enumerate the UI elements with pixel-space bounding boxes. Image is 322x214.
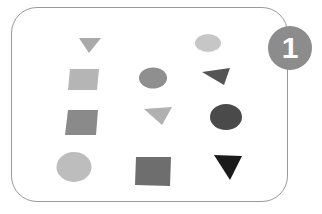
square-shape-r2c1 <box>68 69 99 90</box>
triangle-down-shape-r1c1 <box>79 38 101 53</box>
triangle-shape-r2c3 <box>202 68 230 85</box>
circle-shape-r3c3 <box>210 104 242 130</box>
badge-label: 1 <box>282 31 299 65</box>
circle-shape-r4c1 <box>57 152 92 182</box>
number-badge: 1 <box>268 26 312 70</box>
circle-shape-r2c2 <box>139 68 167 89</box>
square-shape-r3c1 <box>65 110 98 135</box>
blob-shape-r1c3 <box>195 34 221 52</box>
triangle-down-shape-r4c3 <box>214 155 242 180</box>
triangle-shape-r3c2 <box>144 107 172 125</box>
square-shape-r4c2 <box>135 157 171 186</box>
